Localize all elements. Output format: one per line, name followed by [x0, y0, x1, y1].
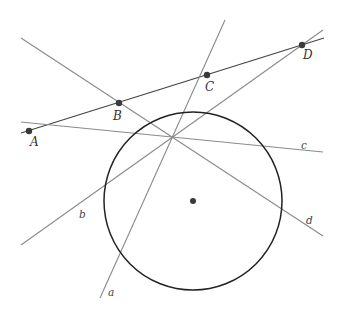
line-d — [21, 38, 323, 236]
label-point-a: A — [29, 135, 39, 149]
label-line-c: c — [301, 139, 307, 151]
geometry-diagram: A B C D a b c d — [0, 0, 341, 313]
label-point-b: B — [112, 109, 122, 123]
label-point-d: D — [302, 48, 313, 62]
line-abcd — [21, 38, 324, 133]
label-line-b: b — [79, 208, 86, 220]
point-a — [26, 128, 32, 134]
label-point-c: C — [205, 80, 214, 94]
label-line-a: a — [108, 286, 114, 298]
label-line-d: d — [306, 214, 313, 226]
point-b — [116, 100, 122, 106]
point-c — [204, 72, 210, 78]
circle-center-point — [190, 198, 196, 204]
